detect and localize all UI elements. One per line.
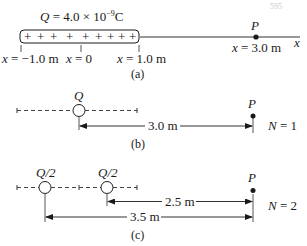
tick-label-0: x = 0 [65, 51, 92, 66]
point-p-label: P [247, 170, 256, 185]
plus-sign: + [118, 29, 125, 44]
panel-c: Q/2 Q/2 2.5 m 3.5 m P N = 2 (c) [17, 165, 297, 242]
distance-near-label: 2.5 m [165, 194, 195, 209]
point-charge-q [73, 105, 85, 117]
plus-sign: + [50, 29, 57, 44]
charge-q-label: Q [74, 88, 84, 103]
x-axis-label: x [293, 35, 300, 50]
point-p-position: x = 3.0 m [231, 40, 281, 55]
plus-sign: + [107, 29, 114, 44]
point-p-dot [251, 188, 256, 193]
point-p-dot [251, 114, 256, 119]
point-p-dot [253, 34, 258, 39]
tick-label-minus-1: x = −1.0 m [1, 51, 59, 66]
n-label: N = 2 [267, 198, 297, 213]
caption-c: (c) [131, 228, 144, 242]
caption-a: (a) [131, 67, 144, 81]
caption-b: (b) [131, 137, 145, 151]
distance-far-label: 3.5 m [130, 209, 160, 224]
point-p-label: P [247, 96, 256, 111]
plus-sign: + [66, 29, 73, 44]
panel-a: Q = 4.0 × 10−9C + + + + + + + + + x = −1… [1, 9, 300, 81]
point-charge-q-half-2 [101, 182, 113, 194]
plus-sign: + [24, 29, 31, 44]
n-label: N = 1 [267, 118, 297, 133]
plus-sign: + [95, 29, 102, 44]
plus-sign: + [82, 29, 89, 44]
charged-rod-diagram: 595 Q = 4.0 × 10−9C + + + + + + + + + x … [0, 0, 307, 246]
plus-sign: + [37, 29, 44, 44]
plus-sign: + [129, 29, 136, 44]
rod-charge-label: Q = 4.0 × 10−9C [40, 9, 124, 24]
point-p-label: P [250, 18, 259, 33]
charge-q-half-label-2: Q/2 [98, 165, 118, 180]
charge-q-half-label-1: Q/2 [36, 165, 56, 180]
corner-page-number: 595 [270, 2, 282, 11]
point-charge-q-half-1 [39, 182, 51, 194]
distance-label: 3.0 m [148, 118, 178, 133]
tick-label-plus-1: x = 1.0 m [116, 51, 166, 66]
panel-b: Q 3.0 m P N = 1 (b) [17, 88, 297, 151]
